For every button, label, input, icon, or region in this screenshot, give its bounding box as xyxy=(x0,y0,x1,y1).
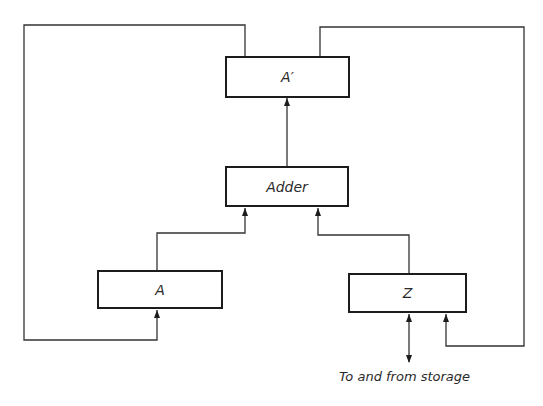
register-a-prime-label: A′ xyxy=(281,69,294,85)
register-a-box: A xyxy=(97,270,223,309)
arrow-up-icon xyxy=(242,208,248,216)
adder-label: Adder xyxy=(266,179,308,195)
arrow-down-icon xyxy=(406,355,412,363)
register-a-label: A xyxy=(155,282,165,298)
adder-box: Adder xyxy=(225,166,349,207)
arrow-up-icon xyxy=(284,98,290,106)
register-z-label: Z xyxy=(403,285,413,301)
diagram-canvas: A′ Adder A Z To and from storage xyxy=(0,0,543,406)
arrow-up-icon xyxy=(406,314,412,322)
arrow-up-icon xyxy=(154,310,160,318)
register-a-prime-box: A′ xyxy=(225,56,350,98)
storage-caption: To and from storage xyxy=(339,369,470,384)
register-z-box: Z xyxy=(348,273,467,313)
z-to-adder-line xyxy=(318,208,409,273)
arrow-up-icon xyxy=(315,208,321,216)
arrow-up-icon xyxy=(443,314,449,322)
a-to-adder-line xyxy=(157,208,245,270)
